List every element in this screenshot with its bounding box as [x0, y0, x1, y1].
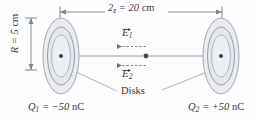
dim-v-value: 5	[9, 29, 20, 34]
disk-left-negative	[43, 18, 79, 94]
dim-h-symbol: 2z	[108, 2, 116, 13]
field-vector-e1-label: E 1	[122, 26, 132, 40]
q2-value: +50	[212, 101, 230, 112]
vertical-dimension-line	[25, 18, 37, 70]
q1-unit: nC	[72, 101, 84, 112]
dim-v-equals: =	[9, 37, 20, 44]
vector-arrow-icon	[122, 67, 131, 72]
q1-subscript: 1	[36, 105, 40, 114]
disks-label: Disks	[119, 85, 147, 96]
e1-subscript: 1	[129, 31, 133, 40]
q1-equals: =	[42, 101, 49, 112]
q1-value: −50	[52, 101, 70, 112]
charge-label-q2: Q2 = +50 nC	[188, 101, 244, 114]
dim-h-value: 20	[129, 2, 140, 13]
dim-h-equals: =	[119, 2, 126, 13]
physics-figure-two-charged-disks: 2z = 20 cm R = 5 cm E 1 E 2 Disks	[0, 0, 260, 119]
e1-symbol-wrap: E	[122, 26, 129, 38]
field-vector-e2-label: E 2	[122, 67, 132, 81]
charge-label-q1: Q1 = −50 nC	[28, 101, 84, 114]
q2-equals: =	[202, 101, 209, 112]
e2-symbol-wrap: E	[122, 67, 129, 79]
q2-unit: nC	[232, 101, 244, 112]
disk-left-center-dot	[59, 54, 63, 58]
vector-arrow-icon	[122, 26, 131, 31]
q1-symbol: Q	[28, 101, 36, 112]
disk-right-positive	[203, 18, 239, 94]
dim-h-unit: cm	[142, 2, 155, 13]
disk-right-center-dot	[219, 54, 223, 58]
q2-subscript: 2	[196, 105, 200, 114]
field-point-dot	[144, 54, 149, 59]
q2-symbol: Q	[188, 101, 196, 112]
vertical-dimension-label: R = 5 cm	[9, 11, 20, 57]
horizontal-dimension-label: 2z = 20 cm	[106, 2, 156, 15]
e2-subscript: 2	[129, 72, 133, 81]
dim-v-unit: cm	[9, 14, 20, 27]
dim-v-symbol: R	[9, 47, 20, 53]
